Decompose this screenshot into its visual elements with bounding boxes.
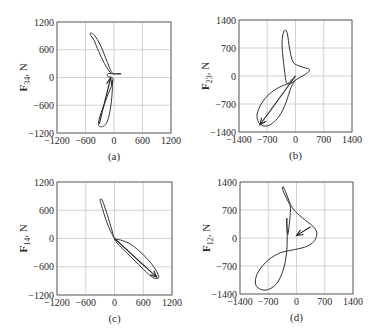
y-tick-label: −700 [215,99,236,110]
panel-label: (d) [290,311,303,324]
y-axis-label: F23, N [199,62,214,90]
panel-b: −1400−70007001400−1400−70007001400F23, N… [190,0,378,170]
force-vector-arrow [297,227,311,236]
y-tick-label: 0 [232,233,237,244]
y-tick-label: 0 [231,71,236,82]
y-tick-label: 1200 [34,17,54,28]
y-axis-label: F14, N [17,224,32,252]
grid [57,22,171,133]
x-tick-label: 1400 [343,296,363,307]
x-tick-label: 0 [293,134,298,145]
y-tick-label: 0 [49,72,54,83]
y-axis-label: F12, N [200,224,215,252]
chart-d: −1400−70007001400−1400−70007001400F12, N… [190,170,378,335]
x-tick-label: 0 [112,135,117,146]
panel-a: −1200−60006001200−1200−60006001200F34, N… [0,0,190,170]
y-tick-label: −600 [33,261,54,272]
y-tick-label: 600 [39,205,54,216]
x-tick-label: 700 [316,134,331,145]
y-tick-label: 1400 [216,15,236,26]
y-tick-label: 0 [49,233,54,244]
y-tick-label: 700 [221,43,236,54]
x-tick-label: 700 [317,296,332,307]
panel-c: −1200−60006001200−1200−60006001200F14, N… [0,170,190,335]
y-axis-label: F34, N [17,63,32,91]
y-tick-label: −600 [33,100,54,111]
y-tick-label: −1200 [28,290,54,301]
y-tick-label: −1400 [210,127,236,138]
x-tick-label: 1400 [342,134,362,145]
y-tick-label: 600 [39,44,54,55]
panel-label: (b) [289,149,302,162]
x-tick-label: 0 [294,296,299,307]
x-tick-label: 600 [135,135,150,146]
y-tick-label: −700 [216,261,237,272]
panel-label: (c) [108,312,121,325]
force-vector-arrow [115,239,157,278]
arrowhead-icon [297,230,304,236]
x-tick-label: 1200 [161,135,181,146]
y-tick-label: 700 [222,205,237,216]
chart-a: −1200−60006001200−1200−60006001200F34, N… [0,0,190,170]
panel-label: (a) [108,150,121,163]
y-tick-label: 1200 [34,177,54,188]
chart-b: −1400−70007001400−1400−70007001400F23, N… [190,0,378,170]
x-tick-label: 600 [136,297,151,308]
x-tick-label: −700 [258,296,279,307]
x-tick-label: −700 [257,134,278,145]
force-locus-curve [257,30,310,126]
panel-d: −1400−70007001400−1400−70007001400F12, N… [190,170,378,335]
x-tick-label: −600 [75,135,96,146]
grid [240,182,353,294]
chart-c: −1200−60006001200−1200−60006001200F14, N… [0,170,190,335]
force-locus-curve [90,33,121,127]
y-tick-label: 1400 [217,177,237,188]
x-tick-label: −600 [75,297,96,308]
x-tick-label: 1200 [162,297,182,308]
y-tick-label: −1200 [28,128,54,139]
y-tick-label: −1400 [211,289,237,300]
force-locus-curve [255,187,317,290]
x-tick-label: 0 [112,297,117,308]
